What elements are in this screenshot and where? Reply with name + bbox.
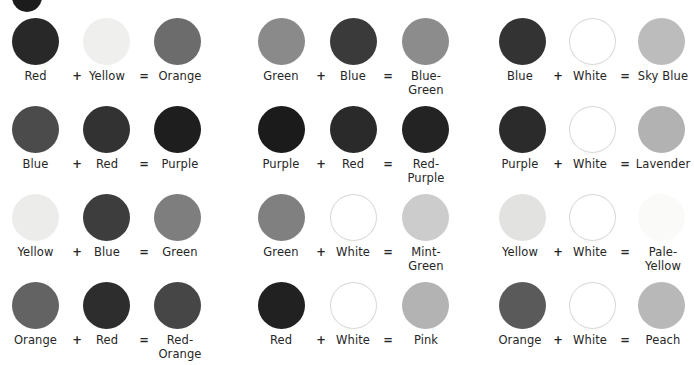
swatch-row [486,194,694,246]
color-swatch-a[interactable] [258,106,305,153]
color-label-b: White [558,70,622,84]
equation-row: Orange + Red = Red- Orange [0,282,240,365]
color-label-a: Orange [2,334,69,348]
color-swatch-b[interactable] [330,18,377,65]
equation-row: Green + White = Mint- Green [248,194,476,280]
color-swatch-a[interactable] [12,106,59,153]
color-swatch-a[interactable] [12,18,59,65]
swatch-row [0,282,240,334]
swatch-row [486,282,694,334]
equation-row: Purple + White = Lavender [486,106,694,192]
color-swatch-result[interactable] [402,194,449,241]
color-swatch-b[interactable] [330,106,377,153]
color-swatch-b[interactable] [83,106,130,153]
color-swatch-result[interactable] [638,282,685,329]
color-swatch-a[interactable] [258,194,305,241]
color-label-result: Sky Blue [629,70,694,84]
swatch-row [0,194,240,246]
equation-row: Yellow + White = Pale- Yellow [486,194,694,280]
color-label-result: Red- Orange [146,334,214,361]
equation-row: Green + Blue = Blue- Green [248,18,476,104]
color-swatch-b[interactable] [569,106,616,153]
label-row: Green + White = Mint- Green [248,246,476,280]
color-swatch-result[interactable] [402,18,449,65]
color-swatch-result[interactable] [638,18,685,65]
label-row: Orange + White = Peach [486,334,694,365]
color-swatch-b[interactable] [569,18,616,65]
equation-row: Orange + White = Peach [486,282,694,365]
color-label-a: Purple [246,158,316,172]
swatch-row [0,106,240,158]
color-label-b: Yellow [76,70,138,84]
color-swatch-a[interactable] [499,282,546,329]
color-swatch-b[interactable] [330,194,377,241]
color-swatch-result[interactable] [154,194,201,241]
swatch-row [248,194,476,246]
color-label-b: White [558,246,622,260]
equation-row: Blue + Red = Purple [0,106,240,192]
color-swatch-result[interactable] [638,106,685,153]
color-label-b: Blue [322,70,384,84]
color-label-b: Red [76,158,138,172]
color-label-b: White [322,246,384,260]
color-label-a: Blue [2,158,69,172]
label-row: Yellow + White = Pale- Yellow [486,246,694,280]
label-row: Purple + White = Lavender [486,158,694,192]
color-label-result: Blue- Green [392,70,460,97]
color-label-result: Pale- Yellow [629,246,694,273]
color-label-a: Green [246,70,316,84]
color-swatch-result[interactable] [402,282,449,329]
swatch-row [248,18,476,70]
color-swatch-b[interactable] [83,282,130,329]
color-label-result: Orange [146,70,214,84]
label-row: Orange + Red = Red- Orange [0,334,240,365]
color-swatch-b[interactable] [330,282,377,329]
color-label-a: Yellow [486,246,554,260]
equation-row: Yellow + Blue = Green [0,194,240,280]
color-label-b: Red [76,334,138,348]
color-label-a: Orange [486,334,554,348]
color-swatch-a[interactable] [499,106,546,153]
color-label-result: Purple [146,158,214,172]
color-swatch-result[interactable] [402,106,449,153]
swatch-row [0,18,240,70]
color-swatch-b[interactable] [83,18,130,65]
color-swatch-a[interactable] [258,282,305,329]
color-swatch-a[interactable] [499,194,546,241]
equation-row: Blue + White = Sky Blue [486,18,694,104]
color-swatch-b[interactable] [569,194,616,241]
color-swatch-b[interactable] [83,194,130,241]
color-swatch-a[interactable] [12,282,59,329]
color-label-a: Red [246,334,316,348]
color-label-a: Yellow [2,246,69,260]
color-label-a: Purple [486,158,554,172]
label-row: Green + Blue = Blue- Green [248,70,476,104]
color-swatch-b[interactable] [569,282,616,329]
color-label-b: White [558,158,622,172]
color-swatch-result[interactable] [154,106,201,153]
color-swatch-result[interactable] [638,194,685,241]
color-label-b: White [322,334,384,348]
label-row: Blue + White = Sky Blue [486,70,694,104]
color-label-result: Peach [629,334,694,348]
equation-row: Red + Yellow = Orange [0,18,240,104]
color-label-b: Red [322,158,384,172]
color-swatch-result[interactable] [154,282,201,329]
color-label-result: Pink [392,334,460,348]
color-swatch-a[interactable] [12,194,59,241]
equation-row: Red + White = Pink [248,282,476,365]
color-label-a: Blue [486,70,554,84]
label-row: Red + White = Pink [248,334,476,365]
color-swatch-result[interactable] [154,18,201,65]
swatch-row [248,282,476,334]
cropped-circle [12,0,42,12]
color-label-b: Blue [76,246,138,260]
color-swatch-a[interactable] [499,18,546,65]
color-label-result: Green [146,246,214,260]
swatch-row [486,18,694,70]
color-swatch-a[interactable] [258,18,305,65]
color-label-result: Lavender [629,158,694,172]
label-row: Red + Yellow = Orange [0,70,240,104]
color-label-b: White [558,334,622,348]
